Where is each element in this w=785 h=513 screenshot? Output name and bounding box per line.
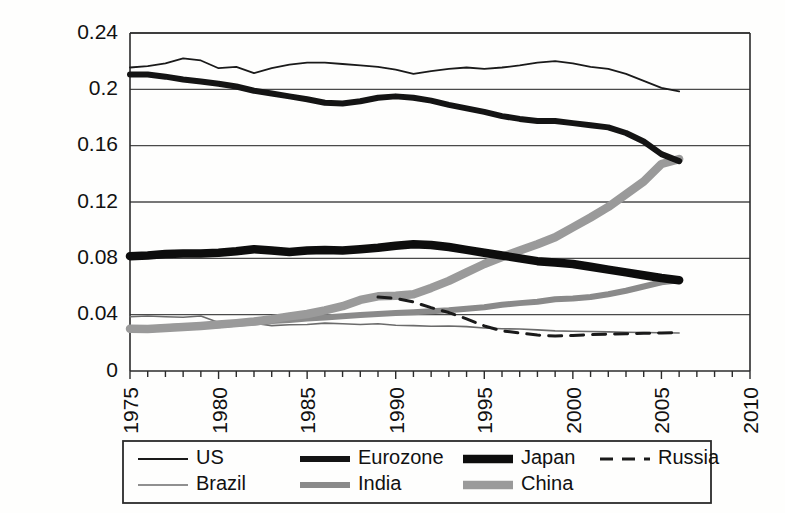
chart-legend: USEurozoneJapanRussiaBrazilIndiaChina — [123, 441, 720, 503]
x-tick-label: 1990 — [385, 387, 408, 434]
x-tick-label: 2000 — [562, 387, 585, 434]
y-tick-label: 0 — [106, 358, 118, 381]
series-layer — [130, 58, 679, 336]
legend-label-india: India — [358, 472, 402, 494]
x-tickmarks — [130, 371, 750, 379]
series-line-us — [130, 58, 679, 91]
series-line-eurozone — [130, 75, 679, 162]
y-tick-label: 0.24 — [77, 20, 118, 43]
x-tick-label: 1995 — [473, 387, 496, 434]
legend-label-china: China — [521, 472, 574, 494]
line-chart: 00.040.080.120.160.20.24 197519801985199… — [0, 0, 785, 513]
x-tick-label: 2005 — [650, 387, 673, 434]
y-tick-label: 0.08 — [77, 245, 118, 268]
y-tick-label: 0.04 — [77, 301, 118, 324]
y-tick-label: 0.16 — [77, 132, 118, 155]
legend-label-us: US — [196, 446, 224, 468]
x-axis-labels: 19751980198519901995200020052010 — [119, 387, 762, 434]
legend-label-japan: Japan — [521, 446, 576, 468]
x-tick-label: 1980 — [208, 387, 231, 434]
legend-label-russia: Russia — [658, 446, 720, 468]
x-tick-label: 2010 — [739, 387, 762, 434]
series-line-japan — [130, 244, 679, 280]
x-tick-label: 1975 — [119, 387, 142, 434]
x-tick-label: 1985 — [296, 387, 319, 434]
y-axis-labels: 00.040.080.120.160.20.24 — [77, 20, 118, 381]
y-tick-label: 0.12 — [77, 189, 118, 212]
legend-label-eurozone: Eurozone — [358, 446, 444, 468]
legend-label-brazil: Brazil — [196, 472, 246, 494]
chart-figure: 00.040.080.120.160.20.24 197519801985199… — [0, 0, 785, 513]
y-tick-label: 0.2 — [89, 76, 118, 99]
